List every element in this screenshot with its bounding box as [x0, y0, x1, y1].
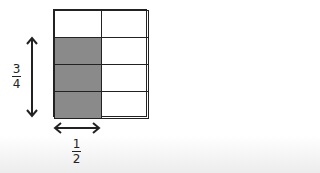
horizontal-fraction-label: 1 2 — [72, 138, 81, 165]
grid-cell — [101, 64, 149, 92]
grid-cell — [101, 37, 149, 65]
numerator: 1 — [73, 138, 81, 150]
vertical-fraction-label: 3 4 — [12, 63, 21, 90]
denominator: 4 — [13, 78, 21, 90]
fraction-grid — [53, 9, 147, 117]
numerator: 3 — [13, 63, 21, 75]
horizontal-double-arrow-icon — [53, 121, 101, 135]
grid-cell — [101, 91, 149, 119]
grid-cell-shaded — [54, 64, 102, 92]
grid-cell — [54, 10, 102, 38]
grid-cell-shaded — [54, 37, 102, 65]
grid-cell-shaded — [54, 91, 102, 119]
grid-cell — [101, 10, 149, 38]
vertical-double-arrow-icon — [25, 36, 39, 118]
denominator: 2 — [73, 153, 81, 165]
